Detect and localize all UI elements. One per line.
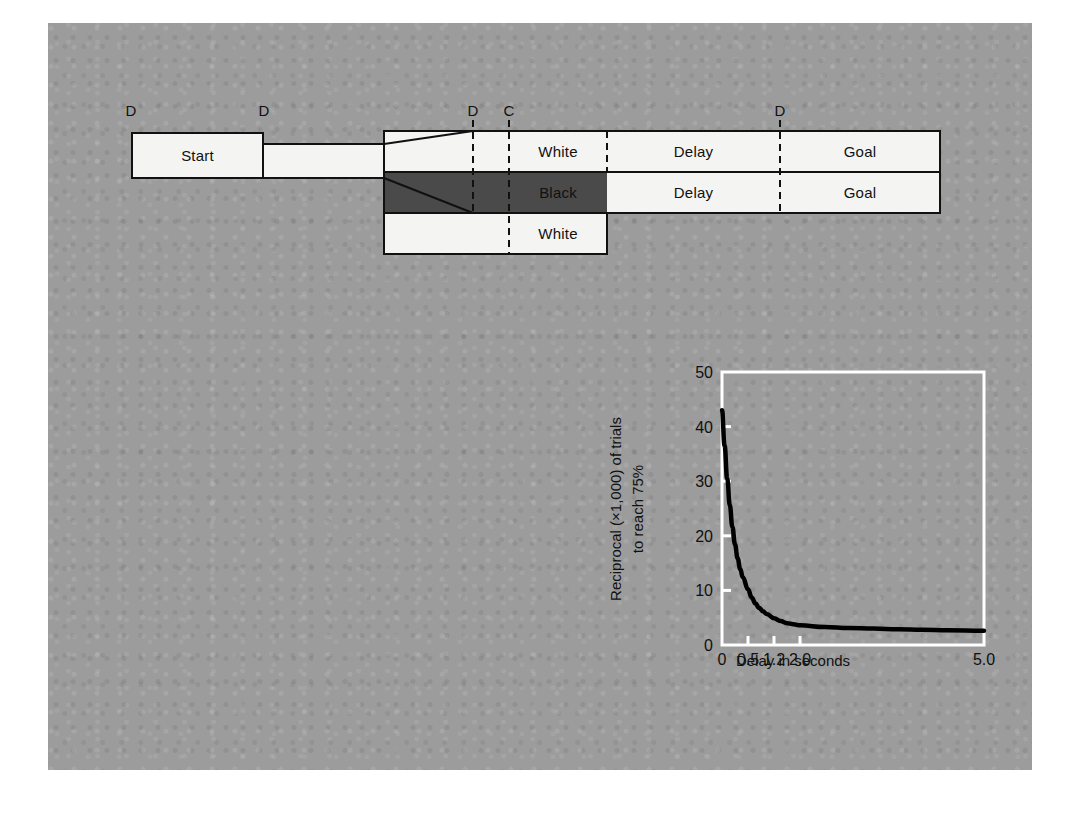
x-axis-title: Delay in seconds — [736, 652, 850, 669]
marker-d-stimulus: D — [468, 102, 479, 119]
plot-frame — [722, 372, 984, 645]
cell-goal-top: Goal — [780, 131, 940, 172]
start-box: Start — [131, 132, 264, 179]
delay-performance-chart: 01020304050 00.51.22.05.0 Reciprocal (×1… — [593, 343, 1013, 673]
marker-c-choice: C — [504, 102, 515, 119]
data-series-curve — [722, 410, 984, 631]
start-connector-band — [264, 144, 384, 178]
x-axis-tick-label: 0 — [718, 651, 727, 668]
cell-white-top: White — [509, 131, 607, 172]
y-axis-tick-label: 30 — [695, 473, 713, 490]
row-middle-frame — [384, 172, 940, 213]
cell-black-middle: Black — [509, 172, 607, 213]
branch-line-lower — [384, 178, 473, 213]
y-axis-tick-label: 20 — [695, 528, 713, 545]
figure-background-panel: D D D C D Start — [48, 23, 1032, 770]
marker-d-start-right: D — [259, 102, 270, 119]
y-axis-tick-label: 40 — [695, 419, 713, 436]
cell-delay-middle: Delay — [607, 172, 780, 213]
chart-svg: 01020304050 00.51.22.05.0 Reciprocal (×1… — [593, 343, 1013, 673]
x-axis-tick-label: 5.0 — [973, 651, 995, 668]
y-axis-tick-label: 50 — [695, 364, 713, 381]
row-bottom-frame — [384, 213, 607, 254]
diagram-vector-layer — [48, 23, 1032, 323]
branch-line-upper — [384, 131, 473, 144]
y-axis-tick-labels: 01020304050 — [695, 364, 713, 654]
cell-goal-middle: Goal — [780, 172, 940, 213]
cell-white-bottom: White — [509, 213, 607, 254]
y-axis-tick-label: 0 — [704, 637, 713, 654]
row-top-frame — [384, 131, 940, 172]
black-stimulus-fill — [385, 173, 607, 212]
figure-root: D D D C D Start — [0, 0, 1065, 814]
y-axis-title-line1: Reciprocal (×1,000) of trials — [607, 417, 624, 601]
marker-d-start-left: D — [126, 102, 137, 119]
y-axis-title-line2: to reach 75% — [629, 465, 646, 553]
y-axis-tick-label: 10 — [695, 582, 713, 599]
cell-delay-top: Delay — [607, 131, 780, 172]
marker-d-goal: D — [775, 102, 786, 119]
